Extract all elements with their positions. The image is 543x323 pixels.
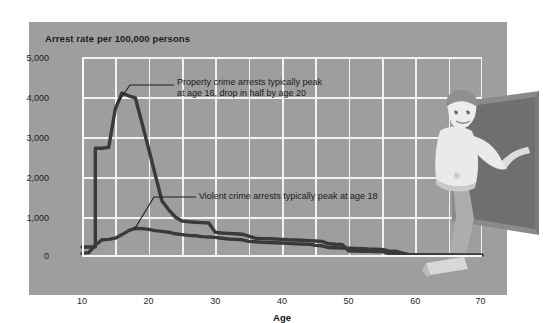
y-tick-0: 0 [44, 251, 49, 261]
chart-title: Arrest rate per 100,000 persons [45, 33, 190, 44]
x-tick-50: 50 [344, 296, 354, 306]
y-axis-line [82, 57, 84, 257]
leader-line-violent-crime [134, 197, 196, 230]
annotation-violent-crime: Violent crime arrests typically peak at … [199, 191, 377, 202]
y-tick-1000: 1,000 [26, 213, 49, 223]
x-tick-20: 20 [144, 296, 154, 306]
x-axis-label: Age [82, 312, 482, 323]
y-tick-2000: 2,000 [26, 173, 49, 183]
x-tick-70: 70 [475, 296, 485, 306]
x-tick-40: 40 [277, 296, 287, 306]
y-tick-5000: 5,000 [26, 53, 49, 63]
y-tick-4000: 4,000 [26, 93, 49, 103]
series-line-property-crime [82, 93, 482, 255]
x-tick-30: 30 [210, 296, 220, 306]
annotation-property-crime: Property crime arrests typically peak at… [177, 77, 322, 99]
x-tick-60: 60 [410, 296, 420, 306]
series-line-violent-crime [82, 228, 482, 255]
y-tick-3000: 3,000 [26, 133, 49, 143]
plot-area: Property crime arrests typically peak at… [82, 57, 482, 257]
x-axis-line [82, 255, 482, 257]
poster-panel: Arrest rate per 100,000 persons 5,000 4,… [29, 22, 507, 295]
x-tick-10: 10 [77, 296, 87, 306]
